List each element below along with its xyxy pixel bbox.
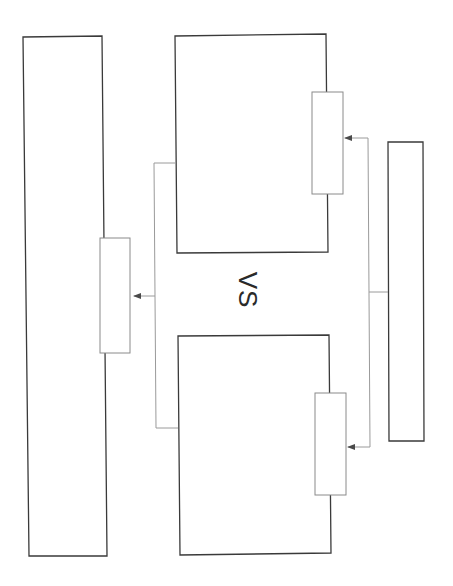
- comparison-diagram: [0, 0, 453, 586]
- left-connector: [134, 163, 178, 428]
- lower-middle-box: [178, 335, 331, 555]
- right-connector: [345, 138, 388, 447]
- right-narrow-box: [388, 142, 424, 441]
- lower-port-box: [315, 393, 346, 495]
- vs-label: VS: [230, 270, 266, 310]
- left-port-box: [100, 238, 130, 353]
- upper-port-box: [312, 92, 343, 194]
- left-tall-box: [23, 36, 107, 556]
- upper-middle-box: [175, 34, 328, 253]
